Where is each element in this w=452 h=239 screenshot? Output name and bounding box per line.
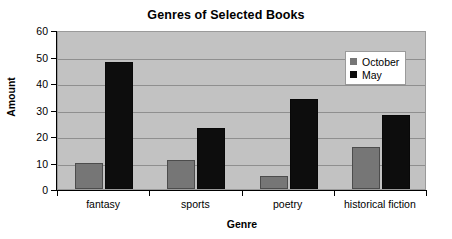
bar-sports-may (197, 128, 225, 189)
bar-sports-october (167, 160, 195, 189)
x-axis-title: Genre (57, 218, 427, 230)
chart-legend: OctoberMay (345, 51, 406, 85)
bar-poetry-may (290, 99, 318, 189)
x-axis-tick-mark (149, 191, 150, 196)
x-axis-tick-mark (426, 191, 427, 196)
bar-historical-fiction-may (382, 115, 410, 189)
y-axis-tick-mark (51, 164, 56, 165)
bar-historical-fiction-october (352, 147, 380, 189)
y-axis-tick-label: 0 (2, 184, 48, 196)
y-axis-tick-label: 50 (2, 52, 48, 64)
x-axis-category-label: sports (149, 198, 241, 210)
legend-item-may: May (350, 68, 399, 81)
plot-area: OctoberMay (57, 31, 426, 190)
y-axis-line (56, 31, 57, 191)
legend-item-october: October (350, 55, 399, 68)
x-axis-tick-mark (334, 191, 335, 196)
y-axis-tick-mark (51, 111, 56, 112)
legend-label: October (362, 56, 399, 68)
bar-poetry-october (260, 176, 288, 189)
bar-fantasy-october (75, 163, 103, 190)
y-axis-tick-mark (51, 190, 56, 191)
legend-swatch-icon (350, 71, 357, 78)
chart-title: Genres of Selected Books (0, 8, 452, 22)
x-axis-category-label: historical fiction (334, 198, 426, 210)
bar-fantasy-may (105, 62, 133, 189)
y-axis-tick-mark (51, 58, 56, 59)
y-axis-tick-mark (51, 31, 56, 32)
legend-swatch-icon (350, 58, 357, 65)
bar-chart: Genres of Selected Books OctoberMay 0102… (0, 0, 452, 239)
y-axis-tick-label: 20 (2, 131, 48, 143)
y-axis-tick-mark (51, 84, 56, 85)
x-axis-tick-mark (57, 191, 58, 196)
x-axis-tick-mark (242, 191, 243, 196)
y-axis-title: Amount (5, 67, 17, 127)
y-axis-tick-mark (51, 137, 56, 138)
y-axis-tick-label: 60 (2, 25, 48, 37)
legend-label: May (362, 69, 382, 81)
x-axis-category-label: poetry (242, 198, 334, 210)
x-axis-category-label: fantasy (57, 198, 149, 210)
y-axis-tick-label: 10 (2, 158, 48, 170)
